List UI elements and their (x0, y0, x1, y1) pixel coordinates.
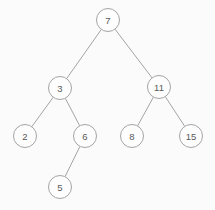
tree-edge-3-6 (65, 98, 79, 126)
node-layer: 7311268155 (14, 9, 203, 199)
tree-node-label-11: 11 (154, 82, 164, 93)
tree-node-6[interactable]: 6 (74, 125, 97, 148)
tree-edge-7-11 (115, 29, 152, 78)
tree-node-2[interactable]: 2 (14, 125, 37, 148)
tree-edge-3-2 (32, 97, 53, 126)
tree-edge-11-8 (138, 97, 154, 126)
tree-edge-11-15 (165, 97, 184, 127)
binary-tree-graphic: 7311268155 (0, 0, 215, 210)
edge-layer (32, 29, 185, 177)
tree-node-11[interactable]: 11 (148, 76, 171, 99)
tree-node-label-15: 15 (186, 131, 197, 142)
tree-node-label-3: 3 (57, 83, 62, 94)
tree-node-label-8: 8 (129, 131, 134, 142)
tree-node-label-5: 5 (57, 182, 62, 193)
tree-node-label-7: 7 (105, 15, 110, 26)
tree-node-15[interactable]: 15 (180, 125, 203, 148)
tree-edge-7-3 (67, 29, 102, 78)
tree-node-3[interactable]: 3 (49, 77, 72, 100)
tree-node-label-6: 6 (82, 131, 87, 142)
tree-node-7[interactable]: 7 (97, 9, 120, 32)
tree-edge-6-5 (65, 146, 80, 176)
tree-node-label-2: 2 (22, 131, 27, 142)
tree-node-5[interactable]: 5 (49, 176, 72, 199)
tree-node-8[interactable]: 8 (121, 125, 144, 148)
tree-diagram-canvas: 7311268155 (0, 0, 215, 210)
